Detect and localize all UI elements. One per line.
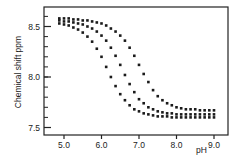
data-point	[203, 116, 206, 119]
data-point	[142, 112, 145, 115]
x-tick-label: 8.0	[171, 140, 183, 150]
data-point	[91, 20, 94, 23]
data-point	[199, 109, 202, 112]
data-point	[124, 74, 127, 77]
data-point	[185, 108, 188, 111]
data-point	[138, 110, 141, 113]
y-axis-ticks: 7.58.08.5	[28, 16, 51, 132]
plot-frame	[44, 7, 228, 135]
data-point	[208, 113, 211, 116]
data-point	[161, 111, 164, 114]
data-point	[63, 17, 66, 20]
data-point	[142, 73, 145, 76]
data-point	[152, 89, 155, 92]
data-point	[180, 116, 183, 119]
data-point	[110, 76, 113, 79]
y-tick-label: 8.5	[28, 22, 40, 32]
data-point	[86, 35, 89, 38]
data-point	[156, 95, 159, 98]
data-point	[91, 40, 94, 43]
data-point	[203, 109, 206, 112]
data-point	[114, 85, 117, 88]
data-points	[58, 17, 215, 119]
data-point	[189, 116, 192, 119]
data-point	[161, 115, 164, 118]
data-point	[152, 114, 155, 117]
x-tick-label: 9.0	[208, 140, 220, 150]
data-point	[194, 116, 197, 119]
data-point	[171, 116, 174, 119]
data-point	[96, 21, 99, 24]
data-point	[152, 108, 155, 111]
data-point	[96, 47, 99, 50]
data-point	[199, 113, 202, 116]
x-tick-label: 7.0	[133, 140, 145, 150]
data-point	[72, 26, 75, 29]
data-point	[105, 66, 108, 69]
data-point	[72, 21, 75, 24]
data-point	[166, 115, 169, 118]
data-point	[124, 39, 127, 42]
data-point	[110, 27, 113, 30]
data-point	[189, 113, 192, 116]
data-point	[81, 23, 84, 26]
data-point	[213, 116, 216, 119]
data-point	[128, 104, 131, 107]
data-point	[156, 115, 159, 118]
data-point	[175, 106, 178, 109]
data-point	[67, 24, 70, 27]
data-point	[100, 56, 103, 59]
data-point	[72, 18, 75, 21]
data-point	[133, 108, 136, 111]
data-point	[77, 18, 80, 21]
data-point	[81, 31, 84, 34]
data-point	[81, 19, 84, 22]
data-point	[91, 27, 94, 30]
data-point	[100, 22, 103, 25]
data-point	[147, 81, 150, 84]
data-point	[185, 113, 188, 116]
data-point	[58, 17, 61, 20]
y-tick-label: 7.5	[28, 123, 40, 133]
data-point	[114, 54, 117, 57]
data-point	[119, 34, 122, 37]
data-point	[96, 30, 99, 33]
data-point	[213, 109, 216, 112]
data-point	[189, 108, 192, 111]
data-point	[180, 113, 183, 116]
data-point	[86, 25, 89, 28]
data-point	[63, 20, 66, 23]
data-point	[133, 91, 136, 94]
data-point	[208, 109, 211, 112]
data-point	[175, 113, 178, 116]
data-point	[119, 93, 122, 96]
data-point	[199, 116, 202, 119]
data-point	[171, 112, 174, 115]
data-point	[58, 22, 61, 25]
x-axis-label: pH	[196, 145, 207, 155]
chemical-shift-vs-ph-chart: 7.58.08.5 5.06.07.08.09.0 Chemical shift…	[0, 0, 241, 159]
x-tick-label: 6.0	[96, 140, 108, 150]
data-point	[142, 102, 145, 105]
data-point	[175, 116, 178, 119]
data-point	[203, 113, 206, 116]
y-axis-label: Chemical shift ppm	[13, 36, 23, 108]
y-tick-label: 8.0	[28, 72, 40, 82]
data-point	[138, 64, 141, 67]
data-point	[124, 99, 127, 102]
data-point	[138, 98, 141, 101]
data-point	[86, 19, 89, 22]
data-point	[161, 99, 164, 102]
data-point	[213, 113, 216, 116]
data-point	[67, 17, 70, 20]
x-tick-label: 5.0	[58, 140, 70, 150]
data-point	[147, 106, 150, 109]
data-point	[77, 28, 80, 31]
data-point	[166, 102, 169, 105]
data-point	[63, 23, 66, 26]
data-point	[100, 34, 103, 37]
data-point	[166, 112, 169, 115]
data-point	[156, 110, 159, 113]
data-point	[67, 20, 70, 23]
data-point	[208, 116, 211, 119]
